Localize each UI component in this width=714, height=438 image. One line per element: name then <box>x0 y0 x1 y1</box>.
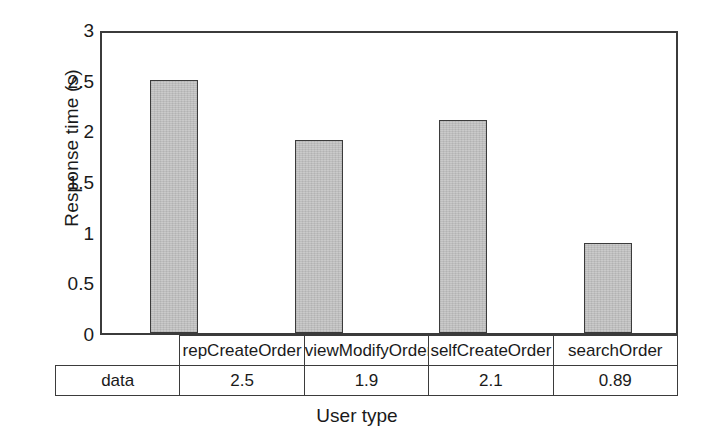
table-header-cell: searchOrder <box>553 336 677 366</box>
bar <box>584 243 632 333</box>
table-corner-cell <box>56 336 180 366</box>
table-row-categories: repCreateOrder viewModifyOrder selfCreat… <box>56 336 678 366</box>
table-row-data: data 2.5 1.9 2.1 0.89 <box>56 366 678 396</box>
bar <box>150 80 198 333</box>
table-value-cell: 2.5 <box>180 366 304 396</box>
table-row-label: data <box>56 366 180 396</box>
plot-area <box>102 33 676 333</box>
table-header-cell: selfCreateOrder <box>429 336 553 366</box>
y-tick-label: 1 <box>83 223 94 245</box>
plot-frame <box>100 31 678 335</box>
bar <box>439 120 487 333</box>
table-value-cell: 2.1 <box>429 366 553 396</box>
y-tick-label: 2.5 <box>68 71 94 93</box>
y-axis-title: Response time (s) <box>61 0 83 298</box>
y-tick-label: 3 <box>83 20 94 42</box>
y-tick-label: 1.5 <box>68 172 94 194</box>
y-tick-label: 0.5 <box>68 273 94 295</box>
data-table: repCreateOrder viewModifyOrder selfCreat… <box>55 335 678 396</box>
table-value-cell: 0.89 <box>553 366 677 396</box>
bar <box>295 140 343 333</box>
y-tick-label: 2 <box>83 121 94 143</box>
x-axis-title: User type <box>0 405 714 427</box>
table-header-cell: repCreateOrder <box>180 336 304 366</box>
table-header-cell: viewModifyOrder <box>304 336 428 366</box>
table-value-cell: 1.9 <box>304 366 428 396</box>
